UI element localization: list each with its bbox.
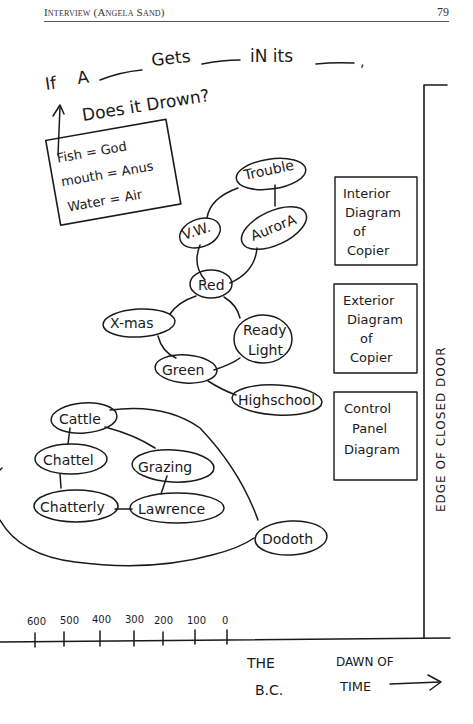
svg-text:Panel: Panel — [352, 421, 387, 436]
svg-text:Diagram: Diagram — [345, 205, 401, 220]
node-chatterly: Chatterly — [34, 490, 118, 522]
svg-text:Ready: Ready — [243, 322, 286, 338]
riddle-word-a: A — [76, 66, 91, 87]
side-box-exterior-diagram: Exterior Diagram of Copier — [334, 284, 417, 373]
arrow-up-icon — [53, 105, 64, 116]
blank-line-3 — [316, 63, 354, 64]
timeline: 600 500 400 300 200 100 0 THE B.C. DAWN … — [0, 614, 450, 698]
tick-label: 100 — [187, 615, 206, 626]
svg-text:Red: Red — [198, 277, 225, 293]
arrow-shaft — [58, 107, 60, 155]
svg-text:Chatterly: Chatterly — [40, 499, 105, 515]
svg-text:Exterior: Exterior — [343, 293, 395, 308]
legend-box: Fish = God mouth = Anus Water = Air — [46, 119, 181, 225]
node-red: Red — [190, 270, 232, 298]
tick-label: 0 — [222, 615, 228, 626]
svg-text:Copier: Copier — [347, 243, 390, 258]
riddle-comma: , — [360, 53, 364, 69]
curve-stub — [0, 468, 2, 470]
node-green: Green — [154, 353, 218, 385]
node-chattel: Chattel — [35, 444, 107, 474]
node-xmas: X-mas — [102, 307, 175, 339]
svg-text:X-mas: X-mas — [110, 315, 153, 331]
svg-text:Grazing: Grazing — [138, 459, 192, 475]
timeline-axis — [0, 638, 450, 642]
svg-text:Highschool: Highschool — [238, 392, 315, 408]
svg-text:Control: Control — [344, 401, 391, 416]
svg-text:Lawrence: Lawrence — [138, 501, 205, 517]
riddle: If A Gets iN its , Does it Drown? — [44, 46, 365, 125]
svg-text:Chattel: Chattel — [43, 452, 94, 468]
node-grazing: Grazing — [131, 448, 215, 484]
tick-label: 200 — [154, 615, 173, 626]
node-highschool: Highschool — [231, 383, 322, 418]
svg-text:AurorA: AurorA — [248, 211, 299, 244]
node-cattle: Cattle — [50, 401, 118, 436]
node-ready-light: Ready Light — [234, 315, 292, 363]
svg-text:Copier: Copier — [350, 350, 393, 365]
node-vw: V.W. — [175, 213, 224, 254]
label-time: TIME — [339, 679, 371, 694]
node-aurora: AurorA — [235, 198, 313, 258]
svg-text:Light: Light — [248, 342, 283, 358]
side-box-control-panel: Control Panel Diagram — [334, 392, 417, 480]
tick-label: 400 — [92, 614, 111, 625]
svg-text:Dodoth: Dodoth — [262, 531, 313, 547]
svg-text:Green: Green — [162, 362, 204, 378]
legend-line: Fish = God — [56, 139, 128, 166]
label-dawn-of: DAWN OF — [336, 655, 394, 669]
svg-text:of: of — [360, 331, 373, 346]
side-box-interior-diagram: Interior Diagram of Copier — [335, 177, 417, 265]
node-trouble: Trouble — [234, 154, 307, 193]
tick-label: 500 — [60, 615, 79, 626]
tick-label: 600 — [27, 616, 46, 627]
riddle-word-in-its: iN its — [250, 46, 293, 66]
svg-text:Diagram: Diagram — [344, 442, 400, 457]
svg-text:Cattle: Cattle — [59, 411, 101, 427]
riddle-word-if: If — [44, 72, 59, 93]
svg-text:Interior: Interior — [343, 186, 391, 201]
blank-line-2 — [202, 60, 240, 64]
curve-left-to-dodoth — [0, 520, 254, 566]
riddle-line-2: Does it Drown? — [80, 85, 210, 125]
label-the: THE — [246, 655, 275, 671]
svg-text:of: of — [353, 224, 366, 239]
svg-text:Trouble: Trouble — [241, 157, 295, 183]
node-lawrence: Lawrence — [130, 493, 224, 523]
legend-line: Water = Air — [66, 187, 144, 215]
svg-text:V.W.: V.W. — [180, 219, 212, 243]
blank-line-1 — [100, 70, 142, 80]
arrow-right-shaft — [390, 682, 440, 684]
node-dodoth: Dodoth — [254, 519, 328, 557]
riddle-word-gets: Gets — [150, 46, 191, 70]
svg-text:Diagram: Diagram — [347, 312, 403, 327]
legend-line: mouth = Anus — [60, 158, 155, 189]
label-bc: B.C. — [255, 682, 283, 698]
door-label: EDGE OF CLOSED DOOR — [434, 347, 448, 512]
hand-drawn-diagram: If A Gets iN its , Does it Drown? Fish =… — [0, 0, 473, 724]
tick-label: 300 — [125, 614, 144, 625]
